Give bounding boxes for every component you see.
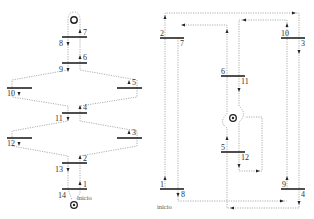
arrow-down-icon [18, 142, 21, 146]
arrow-up-icon [79, 181, 82, 185]
path-7-8-9 [178, 38, 287, 201]
arrow-down-icon [238, 88, 241, 92]
label-1: 1 [83, 180, 87, 189]
path-segment [68, 37, 80, 63]
arrow-up-icon [164, 15, 167, 19]
path-segment [12, 63, 137, 88]
arrow-left-icon [242, 19, 246, 22]
arrow-down-icon [67, 117, 70, 121]
top-loop-path [68, 12, 80, 37]
left-diagram: 7 8 6 9 10 5 4 11 12 3 2 13 1 14 início [7, 12, 142, 208]
label-8: 8 [181, 190, 185, 199]
arrow-down-icon [67, 42, 70, 46]
path-1-2-3 [165, 13, 299, 189]
end-circle-dot [232, 117, 234, 119]
label-5: 5 [221, 143, 225, 152]
label-6: 6 [83, 53, 87, 62]
label-7: 7 [83, 28, 87, 37]
path-3-4-5 [227, 38, 299, 208]
label-11: 11 [241, 77, 249, 86]
start-label: início [157, 203, 172, 210]
arrow-down-icon [177, 193, 180, 197]
arrow-up-icon [79, 29, 82, 33]
label-9: 9 [59, 65, 63, 74]
arrow-left-icon [230, 207, 234, 210]
arrow-up-icon [226, 29, 229, 33]
arrow-up-icon [128, 80, 131, 84]
label-1: 1 [160, 180, 164, 189]
label-8: 8 [59, 39, 63, 48]
arrow-down-icon [298, 50, 301, 54]
arrow-down-icon [18, 92, 21, 96]
arrow-down-icon [238, 164, 241, 168]
path-5-6 [223, 76, 228, 152]
label-4: 4 [301, 190, 305, 199]
label-10: 10 [281, 29, 289, 38]
end-circle-icon [71, 17, 77, 23]
start-circle-dot [73, 204, 75, 206]
label-14: 14 [58, 191, 66, 200]
path-segment [12, 138, 137, 163]
arrow-right-icon [292, 12, 296, 15]
arrow-up-icon [79, 55, 82, 59]
label-5: 5 [132, 78, 136, 87]
label-7: 7 [180, 39, 184, 48]
path-diagram: 7 8 6 9 10 5 4 11 12 3 2 13 1 14 início [0, 0, 314, 219]
path-segment [12, 88, 137, 113]
arrow-up-icon [79, 155, 82, 159]
arrow-up-icon [128, 130, 131, 134]
label-2: 2 [160, 29, 164, 38]
label-11: 11 [55, 114, 63, 123]
arrow-down-icon [298, 201, 301, 205]
right-diagram: 2 7 10 3 6 11 5 12 1 8 9 4 início [157, 12, 305, 211]
arrow-down-icon [67, 168, 70, 172]
start-label: início [77, 194, 92, 201]
label-3: 3 [301, 39, 305, 48]
path-12-end [239, 117, 262, 171]
path-segment [12, 113, 137, 138]
path-9-10-11 [239, 20, 287, 189]
arrow-up-icon [286, 23, 289, 27]
label-10: 10 [7, 89, 15, 98]
label-3: 3 [132, 128, 136, 137]
label-12: 12 [241, 153, 249, 162]
arrow-left-icon [181, 24, 185, 27]
label-4: 4 [83, 103, 87, 112]
arrow-right-icon [280, 200, 284, 203]
label-2: 2 [83, 154, 87, 163]
label-9: 9 [282, 180, 286, 189]
label-13: 13 [55, 165, 63, 174]
path-segment [68, 163, 80, 189]
arrow-up-icon [226, 136, 229, 140]
label-12: 12 [7, 139, 15, 148]
path-11-12 [239, 76, 244, 152]
arrow-right-icon [256, 170, 260, 173]
label-6: 6 [221, 67, 225, 76]
